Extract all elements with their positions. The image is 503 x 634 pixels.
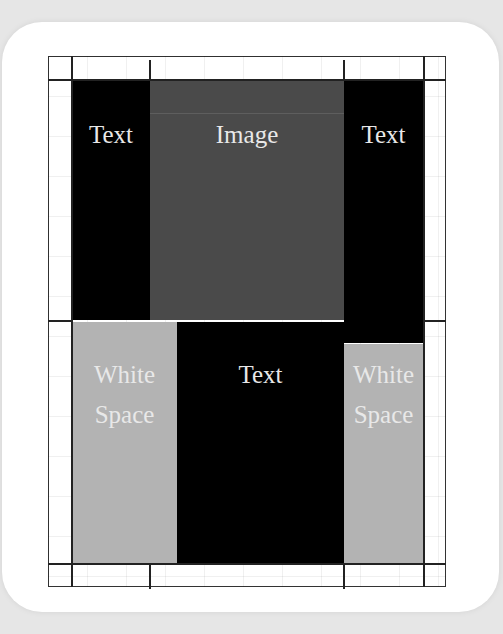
text-block-left-label: Text [72, 120, 150, 149]
row-guide-middle-right [423, 320, 446, 322]
white-space-block-left: White Space [72, 322, 177, 563]
margin-guide-bottom [48, 563, 446, 565]
text-block-right: Text [344, 80, 423, 343]
margin-guide-top [48, 79, 446, 81]
text-block-left: Text [72, 80, 150, 320]
white-space-right-label-line2: Space [344, 400, 423, 429]
column-guide-2 [343, 60, 345, 80]
text-block-right-label: Text [344, 120, 423, 149]
text-block-center: Text [177, 322, 344, 563]
text-block-center-label: Text [177, 360, 344, 389]
white-space-left-label-line1: White [72, 360, 177, 389]
image-block-label: Image [150, 120, 344, 149]
image-block: Image [150, 80, 344, 320]
white-space-left-label-line2: Space [72, 400, 177, 429]
column-guide-1-bottom [149, 563, 151, 589]
white-space-block-right: White Space [344, 344, 423, 563]
column-guide-2-bottom [343, 563, 345, 589]
column-guide-1 [149, 60, 151, 80]
white-space-right-label-line1: White [344, 360, 423, 389]
row-guide-middle [48, 320, 72, 322]
image-block-guide-line [150, 113, 344, 114]
